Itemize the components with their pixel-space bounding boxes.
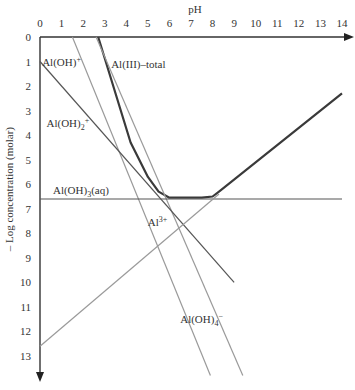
- y-tick-label: 6: [26, 178, 32, 190]
- x-tick-label: 3: [102, 17, 108, 29]
- x-tick-label: 0: [37, 17, 43, 29]
- y-tick-label: 1: [26, 56, 32, 68]
- x-tick-label: 12: [293, 17, 304, 29]
- annotation-label: Al(OH)3(aq): [53, 184, 109, 199]
- x-tick-label: 5: [145, 17, 151, 29]
- annotation-label: Al(III)–total: [111, 58, 165, 71]
- x-tick-label: 10: [250, 17, 262, 29]
- x-tick-label: 9: [231, 17, 237, 29]
- y-tick-label: 9: [26, 252, 32, 264]
- y-tick-label: 10: [20, 276, 32, 288]
- annotation-label: Al(OH)2+: [46, 116, 89, 132]
- x-tick-label: 1: [59, 17, 65, 29]
- y-tick-label: 3: [26, 105, 32, 117]
- x-tick-label: 6: [167, 17, 173, 29]
- x-axis-title: pH: [188, 3, 202, 15]
- y-tick-label: 8: [26, 227, 32, 239]
- x-tick-label: 7: [188, 17, 194, 29]
- y-tick-label: 7: [26, 203, 32, 215]
- y-tick-label: 0: [26, 31, 32, 43]
- x-tick-label: 4: [124, 17, 130, 29]
- x-tick-label: 8: [210, 17, 216, 29]
- y-tick-label: 2: [26, 80, 32, 92]
- annotation-label: Al3+: [148, 215, 168, 228]
- y-tick-label: 11: [20, 301, 31, 313]
- x-tick-label: 2: [80, 17, 86, 29]
- y-axis-title: – Log concentration (molar): [3, 127, 16, 253]
- chart: 01234567891011121314012345678910111213pH…: [0, 0, 355, 390]
- y-tick-label: 12: [20, 325, 31, 337]
- series-line-al3: [96, 37, 243, 376]
- y-axis-arrow: [36, 372, 44, 382]
- y-tick-label: 5: [26, 154, 32, 166]
- x-tick-label: 14: [337, 17, 349, 29]
- x-tick-label: 11: [272, 17, 283, 29]
- x-tick-label: 13: [315, 17, 327, 29]
- y-tick-label: 4: [26, 129, 32, 141]
- series-line-al-oh-2: [40, 62, 234, 283]
- annotation-label: Al(OH)+: [42, 55, 81, 69]
- x-axis-arrow: [344, 33, 354, 41]
- y-tick-label: 13: [20, 350, 32, 362]
